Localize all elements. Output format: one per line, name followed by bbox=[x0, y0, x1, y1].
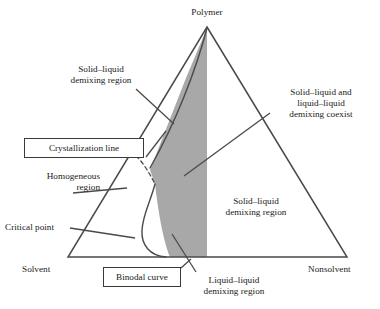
boxed-label-binodal-curve: Binodal curve bbox=[103, 267, 181, 287]
boxed-label-crystallization-line: Crystallization line bbox=[24, 138, 144, 158]
label-solid-liquid-demixing-upper-line1: Solid–liquid bbox=[58, 64, 144, 75]
shaded-coexistence-region bbox=[150, 28, 207, 257]
label-coexist-line2: liquid–liquid bbox=[266, 98, 376, 109]
label-liquid-liquid-demixing-line2: demixing region bbox=[182, 286, 286, 297]
label-coexist-line1: Solid–liquid and bbox=[266, 87, 376, 98]
leader-solid-liquid-upper bbox=[136, 89, 174, 124]
vertex-label-solvent: Solvent bbox=[22, 264, 82, 275]
label-solid-liquid-demixing-right-line1: Solid–liquid bbox=[210, 196, 302, 207]
label-critical-point: Critical point bbox=[5, 222, 85, 233]
label-solid-liquid-demixing-right-line2: demixing region bbox=[206, 207, 306, 218]
label-liquid-liquid-demixing-line1: Liquid–liquid bbox=[186, 275, 282, 286]
label-homogeneous-region-line2: region bbox=[8, 182, 100, 193]
label-coexist-line3: demixing coexist bbox=[266, 109, 376, 120]
ternary-phase-diagram-figure: Polymer Solvent Nonsolvent Solid–liquid … bbox=[0, 0, 380, 309]
label-solid-liquid-demixing-upper-line2: demixing region bbox=[52, 75, 150, 86]
vertex-label-polymer: Polymer bbox=[177, 7, 237, 18]
label-homogeneous-region-line1: Homogeneous bbox=[8, 171, 100, 182]
vertex-label-nonsolvent: Nonsolvent bbox=[308, 264, 378, 275]
leader-binodal-curve bbox=[181, 259, 191, 268]
